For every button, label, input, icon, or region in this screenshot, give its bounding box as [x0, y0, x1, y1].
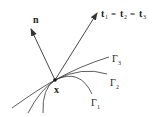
point-x-dot	[53, 78, 57, 82]
tangent-equality-label: t 1 = t 2 = t 3	[101, 8, 146, 20]
gamma-2-label: Γ 2	[110, 77, 119, 90]
svg-text:2: 2	[124, 14, 127, 20]
tangent-curves-diagram: n t 1 = t 2 = t 3 x Γ 3 Γ 2 Γ 1	[0, 0, 159, 117]
svg-text:3: 3	[118, 60, 121, 66]
svg-text:1: 1	[97, 104, 100, 110]
normal-label: n	[33, 14, 39, 25]
svg-text:1: 1	[105, 14, 108, 20]
normal-vector-arrow	[31, 29, 55, 80]
point-label: x	[54, 84, 59, 95]
gamma-3-label: Γ 3	[112, 53, 121, 66]
svg-text:2: 2	[116, 84, 119, 90]
svg-text:3: 3	[143, 14, 146, 20]
curve-gamma-1	[43, 76, 92, 113]
svg-text:=: =	[130, 9, 135, 19]
svg-text:=: =	[111, 9, 116, 19]
tangent-vector-arrow	[55, 13, 97, 80]
gamma-1-label: Γ 1	[91, 97, 100, 110]
